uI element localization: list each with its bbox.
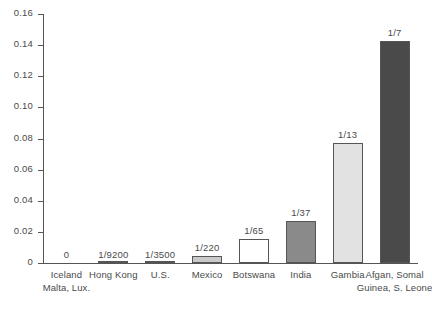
x-axis-category-label-line2: Malta, Lux. <box>43 281 91 294</box>
bar-value-label: 1/37 <box>291 207 310 218</box>
bar[interactable] <box>192 256 222 263</box>
y-tick-label: 0.10 <box>14 100 33 111</box>
x-axis-category-label: U.S. <box>151 268 170 281</box>
y-tick-label: 0.04 <box>14 194 33 205</box>
bar-value-label: 1/13 <box>338 129 357 140</box>
bar-value-label: 1/7 <box>388 27 402 38</box>
bar-value-label: 1/3500 <box>145 249 175 260</box>
x-axis-category-label: India <box>290 268 311 281</box>
y-tick-label: 0 <box>28 256 33 267</box>
bar[interactable] <box>145 261 175 263</box>
bar-group[interactable]: 1/220Mexico <box>192 0 222 312</box>
bar-group[interactable]: 1/65Botswana <box>239 0 269 312</box>
bar-group[interactable]: 1/3500U.S. <box>145 0 175 312</box>
y-tick-label: 0.16 <box>14 7 33 18</box>
bar-group[interactable]: 1/37India <box>286 0 316 312</box>
bar[interactable] <box>239 239 269 263</box>
y-tick-label: 0.08 <box>14 132 33 143</box>
bar[interactable] <box>333 143 363 263</box>
y-tick-label: 0.02 <box>14 225 33 236</box>
bar-value-label: 1/9200 <box>98 249 128 260</box>
bar-group[interactable]: 1/9200Hong Kong <box>98 0 128 312</box>
bar[interactable] <box>380 41 410 263</box>
bar-group[interactable]: 0IcelandMalta, Lux. <box>51 0 81 312</box>
x-axis-category-label: Hong Kong <box>89 268 137 281</box>
x-axis-category-label: Botswana <box>233 268 276 281</box>
bar-value-label: 1/65 <box>244 225 263 236</box>
x-axis-category-label-line2: Guinea, S. Leone <box>357 281 432 294</box>
bar-value-label: 0 <box>64 249 69 260</box>
bar-group[interactable]: 1/7Afgan, SomalGuinea, S. Leone <box>380 0 410 312</box>
bars-layer: 0IcelandMalta, Lux.1/9200Hong Kong1/3500… <box>43 0 418 312</box>
bar[interactable] <box>286 221 316 263</box>
bar-value-label: 1/220 <box>195 242 220 253</box>
x-axis-category-label: Afgan, SomalGuinea, S. Leone <box>357 268 432 294</box>
y-tick-label: 0.12 <box>14 69 33 80</box>
y-tick-label: 0.06 <box>14 163 33 174</box>
x-axis-category-label: Mexico <box>192 268 223 281</box>
x-axis-category-label: IcelandMalta, Lux. <box>43 268 91 294</box>
bar[interactable] <box>98 261 128 263</box>
y-tick-label: 0.14 <box>14 38 33 49</box>
bar-group[interactable]: 1/13Gambia <box>333 0 363 312</box>
